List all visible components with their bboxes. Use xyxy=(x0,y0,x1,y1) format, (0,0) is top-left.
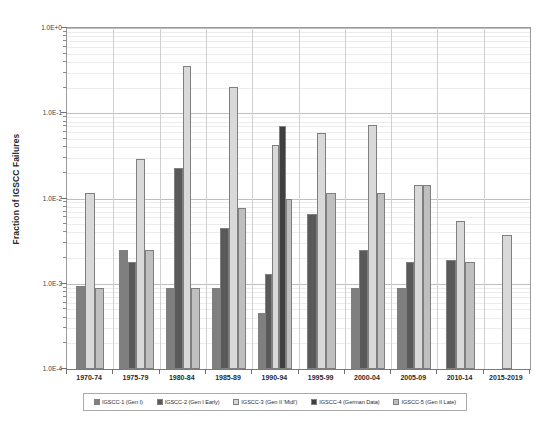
bar xyxy=(212,288,221,369)
x-axis-category-label: 1975-79 xyxy=(123,374,149,381)
category-separator xyxy=(345,28,346,369)
bar xyxy=(279,126,286,369)
category-separator xyxy=(484,28,485,369)
legend-entry[interactable]: IGSCC-5 (Gen II Late) xyxy=(393,399,456,405)
y-tick-minor xyxy=(63,206,67,207)
x-axis-category-label: 2015-2019 xyxy=(489,374,522,381)
y-tick-minor xyxy=(63,317,67,318)
plot-area xyxy=(66,27,531,370)
legend-label: IGSCC-2 (Gen I Early) xyxy=(165,399,220,405)
bar xyxy=(183,66,192,369)
y-tick-minor xyxy=(63,61,67,62)
y-tick-minor xyxy=(63,121,67,122)
y-axis-tick-labels: 1.0E+01.0E-11.0E-21.0E-31.0E-4 xyxy=(0,0,62,428)
y-tick-minor xyxy=(63,302,67,303)
bar xyxy=(166,288,175,369)
y-tick-minor xyxy=(63,223,67,224)
igscc-failure-fraction-chart: Fraction of IGSCC Failures 1.0E+01.0E-11… xyxy=(0,0,550,428)
y-tick-minor xyxy=(63,53,67,54)
y-tick-label: 1.0E-1 xyxy=(22,109,62,116)
x-axis-category-label: 2005-09 xyxy=(400,374,426,381)
bar xyxy=(465,262,475,369)
y-tick-minor xyxy=(63,31,67,32)
bar xyxy=(456,221,466,369)
x-axis-category-label: 1980-84 xyxy=(169,374,195,381)
bar xyxy=(191,288,200,369)
bar xyxy=(317,133,327,369)
y-tick-minor xyxy=(63,242,67,243)
legend-entry[interactable]: IGSCC-1 (Gen I) xyxy=(94,399,143,405)
bar xyxy=(272,145,279,369)
legend-label: IGSCC-1 (Gen I) xyxy=(102,399,143,405)
y-tick-minor xyxy=(63,287,67,288)
bar xyxy=(423,185,432,369)
y-tick-label: 1.0E-3 xyxy=(22,279,62,286)
bar xyxy=(119,250,128,369)
x-axis-category-label: 2010-14 xyxy=(447,374,473,381)
y-tick-minor xyxy=(63,72,67,73)
legend-swatch-icon xyxy=(233,399,239,405)
bar xyxy=(286,199,293,369)
bar xyxy=(406,262,415,369)
legend-label: IGSCC-5 (Gen II Late) xyxy=(401,399,456,405)
bar xyxy=(85,193,95,369)
y-tick-minor xyxy=(63,46,67,47)
category-separator xyxy=(113,28,114,369)
bar xyxy=(377,193,386,369)
bar xyxy=(414,185,423,369)
category-separator xyxy=(299,28,300,369)
y-tick-minor xyxy=(63,131,67,132)
y-tick-minor xyxy=(63,291,67,292)
y-tick-minor xyxy=(63,201,67,202)
y-tick-minor xyxy=(63,138,67,139)
x-tick xyxy=(529,369,530,374)
bar xyxy=(136,159,145,369)
category-separator xyxy=(391,28,392,369)
y-tick-label: 1.0E-4 xyxy=(22,365,62,372)
bar xyxy=(265,274,272,369)
legend-label: IGSCC-4 (German Data) xyxy=(319,399,380,405)
legend-entry[interactable]: IGSCC-3 (Gen II 'Midl') xyxy=(233,399,297,405)
x-axis-category-label: 1985-89 xyxy=(215,374,241,381)
legend-swatch-icon xyxy=(157,399,163,405)
bar xyxy=(368,125,377,369)
legend-label: IGSCC-3 (Gen II 'Midl') xyxy=(241,399,297,405)
y-tick-minor xyxy=(63,308,67,309)
y-tick-minor xyxy=(63,296,67,297)
bar xyxy=(76,286,86,369)
legend-swatch-icon xyxy=(393,399,399,405)
y-tick-minor xyxy=(63,327,67,328)
bar xyxy=(446,260,456,369)
bar xyxy=(95,288,105,369)
bar xyxy=(238,208,247,369)
y-axis-ticks xyxy=(66,27,67,368)
legend-swatch-icon xyxy=(94,399,100,405)
legend-entry[interactable]: IGSCC-2 (Gen I Early) xyxy=(157,399,220,405)
y-tick-minor xyxy=(63,216,67,217)
bar xyxy=(397,288,406,369)
y-tick-minor xyxy=(63,342,67,343)
y-tick-minor xyxy=(63,125,67,126)
legend-swatch-icon xyxy=(311,399,317,405)
y-tick-minor xyxy=(63,116,67,117)
y-tick-minor xyxy=(63,157,67,158)
y-tick-minor xyxy=(63,40,67,41)
y-tick-major xyxy=(61,27,67,28)
y-tick-label: 1.0E+0 xyxy=(22,24,62,31)
bar xyxy=(351,288,360,369)
bar xyxy=(220,228,229,369)
bar xyxy=(359,250,368,369)
category-separator xyxy=(252,28,253,369)
bar xyxy=(229,87,238,369)
category-separator xyxy=(206,28,207,369)
x-axis-category-label: 1990-94 xyxy=(261,374,287,381)
bar xyxy=(128,262,137,369)
bar xyxy=(145,250,154,369)
y-tick-minor xyxy=(63,146,67,147)
x-axis-tick-labels: 1970-741975-791980-841985-891990-941995-… xyxy=(66,374,529,388)
y-tick-minor xyxy=(63,231,67,232)
y-tick-minor xyxy=(63,172,67,173)
y-tick-major xyxy=(61,283,67,284)
legend-entry[interactable]: IGSCC-4 (German Data) xyxy=(311,399,380,405)
bar xyxy=(307,214,317,369)
